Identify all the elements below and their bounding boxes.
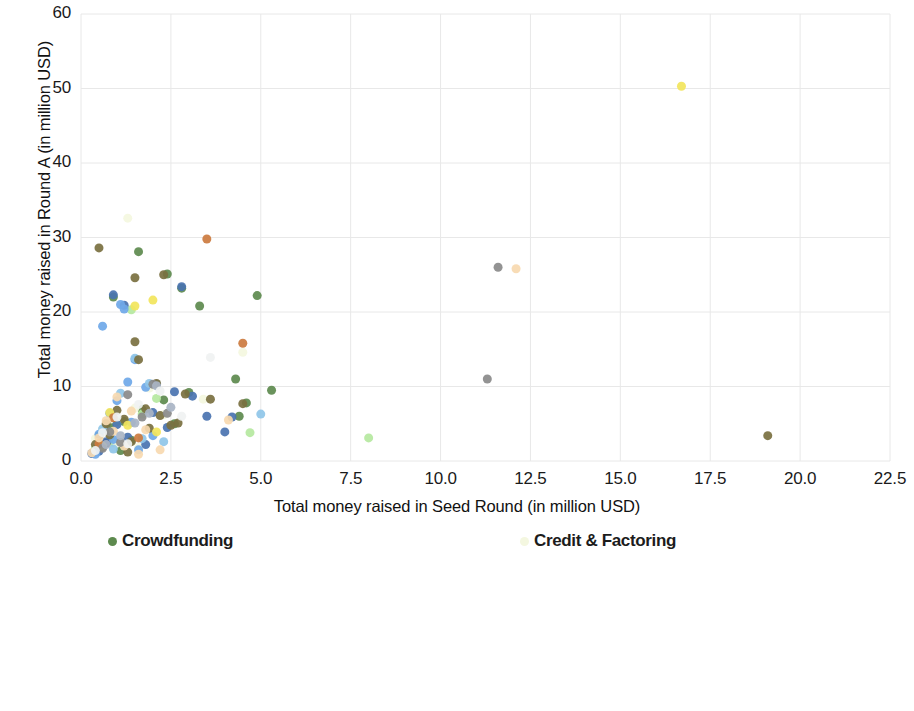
legend-item-label: Crowdfunding — [122, 531, 233, 551]
data-point — [181, 389, 190, 398]
data-point — [152, 427, 161, 436]
legend-item-label: Credit & Factoring — [534, 531, 676, 551]
y-axis-title: Total money raised in Round A (in millio… — [35, 0, 54, 420]
data-point — [170, 387, 179, 396]
data-point — [224, 416, 233, 425]
data-point — [677, 82, 686, 91]
chart-legend: CrowdfundingCredit & FactoringRobo Advic… — [108, 528, 914, 711]
data-point — [123, 439, 132, 448]
x-tick-label: 17.5 — [675, 469, 745, 489]
legend-swatch-icon — [520, 537, 529, 546]
data-point — [483, 375, 492, 384]
data-point — [494, 263, 503, 272]
data-point — [116, 431, 125, 440]
data-point — [141, 425, 150, 434]
data-point — [130, 302, 139, 311]
data-point — [166, 403, 175, 412]
data-point — [145, 409, 154, 418]
data-point — [98, 428, 107, 437]
data-point — [253, 291, 262, 300]
data-point — [195, 302, 204, 311]
data-point — [123, 378, 132, 387]
data-point — [177, 282, 186, 291]
series-alternative-payment-methods — [91, 243, 772, 456]
data-point — [202, 412, 211, 421]
data-point — [245, 428, 254, 437]
data-point — [220, 427, 229, 436]
data-point — [256, 410, 265, 419]
x-tick-label: 15.0 — [585, 469, 655, 489]
data-point — [91, 446, 100, 455]
data-point — [123, 214, 132, 223]
legend-swatch-icon — [108, 537, 117, 546]
data-point — [238, 348, 247, 357]
data-point — [109, 290, 118, 299]
data-point — [123, 390, 132, 399]
data-point — [102, 416, 111, 425]
data-point — [112, 413, 121, 422]
x-axis-title: Total money raised in Seed Round (in mil… — [0, 497, 914, 516]
scatter-chart-figure: 0102030405060 0.02.55.07.510.012.515.017… — [0, 0, 914, 711]
data-point — [156, 386, 165, 395]
data-point — [130, 273, 139, 282]
series-insurtech — [98, 263, 503, 453]
x-tick-label: 5.0 — [226, 469, 296, 489]
data-point — [763, 431, 772, 440]
data-point — [156, 445, 165, 454]
x-tick-label: 2.5 — [136, 469, 206, 489]
x-tick-label: 10.0 — [406, 469, 476, 489]
x-tick-label: 12.5 — [495, 469, 565, 489]
data-point — [267, 386, 276, 395]
data-point — [202, 234, 211, 243]
x-tick-label: 7.5 — [316, 469, 386, 489]
data-point — [130, 337, 139, 346]
data-point — [206, 353, 215, 362]
data-point — [231, 375, 240, 384]
data-point — [102, 440, 111, 449]
data-point — [238, 399, 247, 408]
data-point — [94, 243, 103, 252]
data-point — [134, 355, 143, 364]
data-point — [512, 264, 521, 273]
data-point — [159, 437, 168, 446]
plot-area — [81, 14, 890, 461]
legend-item-crowdfunding[interactable]: Crowdfunding — [108, 528, 520, 554]
data-points-layer — [81, 14, 890, 461]
data-point — [159, 270, 168, 279]
data-point — [206, 395, 215, 404]
y-tick-label: 0 — [11, 450, 71, 470]
x-tick-label: 22.5 — [855, 469, 914, 489]
data-point — [98, 322, 107, 331]
data-point — [134, 433, 143, 442]
data-point — [112, 392, 121, 401]
data-point — [120, 305, 129, 314]
data-point — [134, 400, 143, 409]
series-crowdfunding — [94, 247, 276, 455]
data-point — [238, 339, 247, 348]
data-point — [127, 407, 136, 416]
data-point — [134, 450, 143, 459]
x-tick-label: 0.0 — [46, 469, 116, 489]
data-point — [364, 433, 373, 442]
data-point — [130, 419, 139, 428]
data-point — [177, 412, 186, 421]
data-point — [148, 296, 157, 305]
x-tick-label: 20.0 — [765, 469, 835, 489]
legend-item-credit-factoring[interactable]: Credit & Factoring — [520, 528, 914, 554]
data-point — [134, 247, 143, 256]
